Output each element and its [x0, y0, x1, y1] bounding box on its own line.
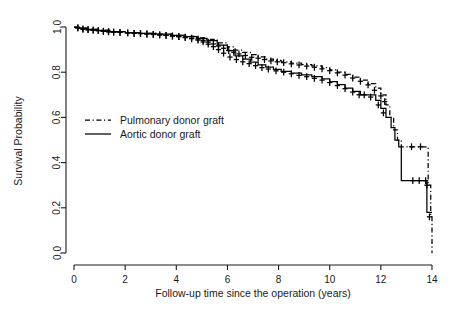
x-tick-label: 6	[225, 274, 231, 285]
kaplan-meier-chart: 0.00.20.40.60.81.0 02468101214 Pulmonary…	[0, 0, 461, 312]
y-axis-ticks: 0.00.20.40.60.81.0	[52, 20, 67, 260]
legend-label-1: Pulmonary donor graft	[120, 114, 224, 126]
y-tick-label: 0.0	[52, 246, 63, 260]
x-tick-label: 14	[426, 274, 438, 285]
series-line-1	[74, 27, 432, 253]
censor-marks-2	[75, 25, 428, 185]
y-tick-label: 0.2	[52, 200, 63, 214]
survival-plot: 0.00.20.40.60.81.0 02468101214 Pulmonary…	[0, 0, 461, 312]
x-tick-label: 8	[276, 274, 282, 285]
y-tick-label: 1.0	[52, 20, 63, 34]
legend-label-2: Aortic donor graft	[120, 128, 201, 140]
y-tick-label: 0.6	[52, 110, 63, 124]
y-axis: 0.00.20.40.60.81.0	[52, 20, 67, 260]
y-tick-label: 0.8	[52, 65, 63, 79]
y-axis-title: Survival Probability	[12, 96, 24, 186]
x-tick-label: 12	[375, 274, 387, 285]
x-tick-label: 10	[324, 274, 336, 285]
x-tick-label: 4	[174, 274, 180, 285]
x-axis-title: Follow-up time since the operation (year…	[155, 287, 351, 299]
x-tick-label: 0	[71, 274, 77, 285]
x-axis-ticks: 02468101214	[71, 265, 438, 285]
x-axis: 02468101214	[71, 265, 438, 285]
y-tick-label: 0.4	[52, 155, 63, 169]
chart-legend: Pulmonary donor graftAortic donor graft	[85, 114, 224, 140]
x-tick-label: 2	[122, 274, 128, 285]
